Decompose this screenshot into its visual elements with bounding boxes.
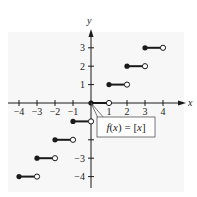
open-endpoint-icon [106, 100, 111, 105]
y-axis-label: y [86, 15, 92, 26]
x-axis-label: x [187, 97, 193, 108]
y-tick-label: −4 [74, 171, 85, 182]
y-tick-label: 1 [80, 79, 85, 90]
x-tick-label: 3 [143, 106, 148, 117]
x-tick-label: 4 [161, 106, 166, 117]
closed-endpoint-icon [52, 137, 57, 142]
y-tick-label: 2 [80, 61, 85, 72]
closed-endpoint-icon [70, 119, 75, 124]
step-function-chart: −4−3−2−11234321−3−4 f(x) = [x] x y [0, 0, 197, 197]
open-endpoint-icon [70, 137, 75, 142]
open-endpoint-icon [142, 64, 147, 69]
x-tick-label: −4 [14, 106, 25, 117]
open-endpoint-icon [52, 156, 57, 161]
open-endpoint-icon [160, 45, 165, 50]
closed-endpoint-icon [142, 45, 147, 50]
y-tick-label: 3 [80, 42, 85, 53]
closed-endpoint-icon [16, 174, 21, 179]
closed-endpoint-icon [106, 82, 111, 87]
open-endpoint-icon [88, 119, 93, 124]
x-tick-label: 2 [125, 106, 130, 117]
open-endpoint-icon [124, 82, 129, 87]
closed-endpoint-icon [124, 64, 129, 69]
function-label: f(x) = [x] [106, 121, 145, 134]
open-endpoint-icon [34, 174, 39, 179]
y-tick-label: −3 [74, 153, 85, 164]
x-tick-label: 1 [107, 106, 112, 117]
x-tick-label: −2 [50, 106, 61, 117]
x-tick-label: −1 [68, 106, 79, 117]
closed-endpoint-icon [34, 156, 39, 161]
x-tick-label: −3 [32, 106, 43, 117]
